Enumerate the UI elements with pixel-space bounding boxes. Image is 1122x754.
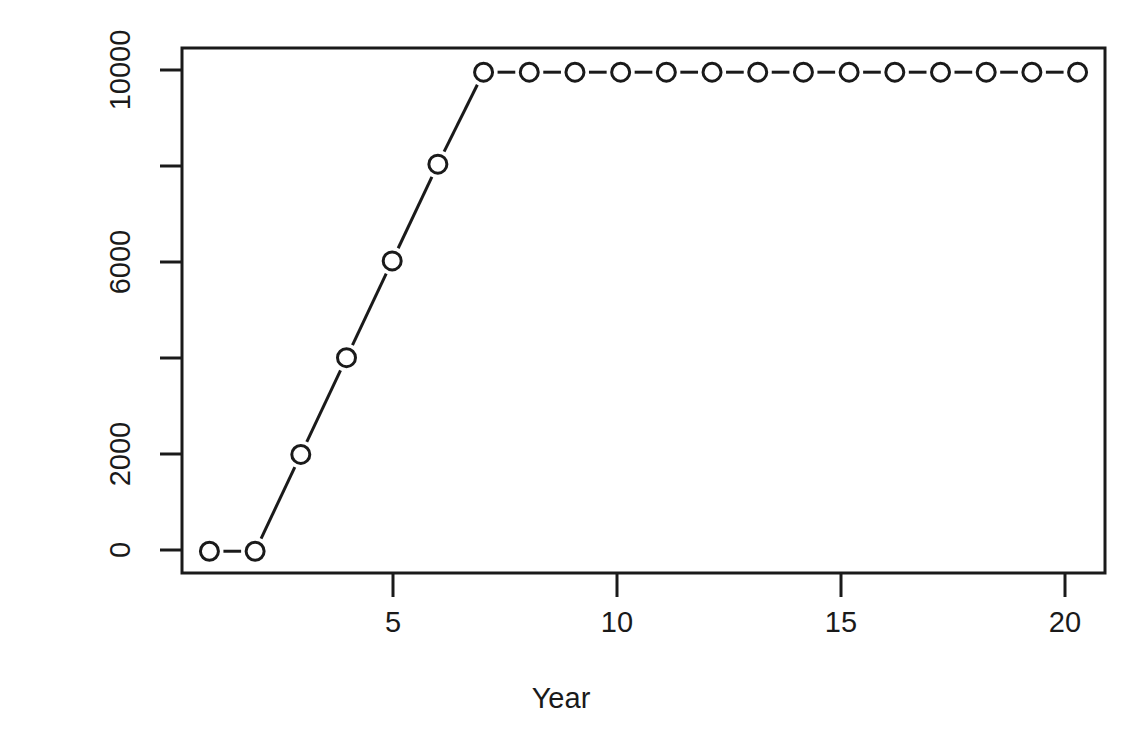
data-point-marker (794, 63, 812, 81)
data-point-marker (1023, 63, 1041, 81)
y-tick-label-0: 0 (102, 514, 138, 586)
x-tick-label-20: 20 (1025, 606, 1105, 639)
data-point-marker (475, 63, 493, 81)
x-tick-label-10: 10 (577, 606, 657, 639)
data-markers (200, 63, 1086, 560)
data-point-marker (977, 63, 995, 81)
x-axis-ticks (393, 573, 1065, 597)
data-line-segment (398, 177, 432, 248)
data-point-marker (657, 63, 675, 81)
data-point-marker (840, 63, 858, 81)
data-point-marker (886, 63, 904, 81)
data-point-marker (292, 445, 310, 463)
data-line-segment (307, 370, 341, 441)
data-point-marker (520, 63, 538, 81)
x-axis-title: Year (0, 682, 1122, 715)
data-line (223, 72, 1063, 551)
y-axis-ticks (160, 70, 182, 550)
data-point-marker (200, 542, 218, 560)
data-line-segment (261, 467, 295, 538)
data-point-marker (429, 155, 447, 173)
data-point-marker (383, 252, 401, 270)
data-point-marker (749, 63, 767, 81)
data-point-marker (932, 63, 950, 81)
data-line-segment (444, 85, 477, 152)
y-tick-label-6000: 6000 (102, 204, 138, 320)
y-tick-label-10000: 10000 (102, 2, 138, 138)
y-axis-title: Sales [000 lbs] (0, 0, 60, 754)
data-point-marker (703, 63, 721, 81)
plot-frame (182, 48, 1105, 573)
plot-canvas (0, 0, 1122, 754)
data-point-marker (338, 349, 356, 367)
x-tick-label-15: 15 (801, 606, 881, 639)
data-line-segment (352, 274, 386, 345)
y-tick-label-2000: 2000 (102, 396, 138, 512)
chart-figure: 0 2000 6000 10000 5 10 15 20 Sales [000 … (0, 0, 1122, 754)
x-tick-label-5: 5 (353, 606, 433, 639)
data-point-marker (612, 63, 630, 81)
data-point-marker (246, 542, 264, 560)
data-point-marker (1069, 63, 1087, 81)
data-point-marker (566, 63, 584, 81)
